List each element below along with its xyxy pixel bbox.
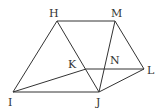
segment-hj [57, 21, 99, 92]
geometry-figure: H M K N L I J [0, 0, 164, 111]
label-n: N [110, 54, 120, 67]
segment-ik [13, 69, 86, 92]
label-m: M [111, 7, 122, 20]
segment-jl [99, 69, 144, 92]
label-i: I [8, 96, 12, 109]
label-k: K [68, 58, 77, 71]
segment-hi [13, 21, 57, 92]
label-j: J [95, 96, 100, 109]
label-h: H [49, 7, 59, 20]
label-l: L [147, 64, 155, 77]
